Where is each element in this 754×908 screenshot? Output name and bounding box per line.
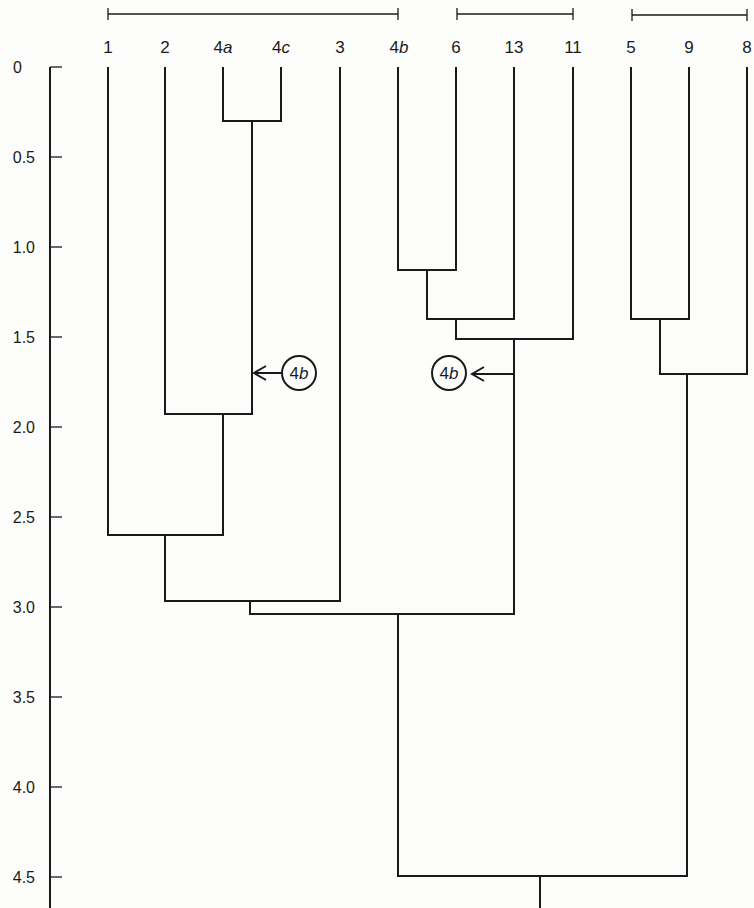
- group-bracket-2: [457, 8, 573, 20]
- branch-root: [398, 374, 687, 876]
- leaf-label: 3: [335, 38, 344, 57]
- annotation-label: 4b: [440, 364, 459, 383]
- branch-8-group: [660, 67, 747, 374]
- y-tick-label: 3.0: [13, 599, 35, 616]
- leaf-label: 8: [742, 38, 751, 57]
- dendrogram-branches: [108, 67, 747, 908]
- dendrogram-chart: 1 2 4a 4c 3 4b 6 13 11 5 9 8 0 0.5 1.0 1…: [0, 0, 754, 908]
- leaf-label: 9: [684, 38, 693, 57]
- annotation-left: 4b: [254, 356, 316, 390]
- annotation-right: 4b: [432, 356, 513, 390]
- branch-4b-6: [398, 67, 456, 270]
- leaf-label: 5: [626, 38, 635, 57]
- leaf-label: 4b: [390, 38, 409, 57]
- leaf-label: 1: [103, 38, 112, 57]
- y-tick-label: 3.5: [13, 689, 35, 706]
- annotation-label: 4b: [290, 364, 309, 383]
- leaf-labels: 1 2 4a 4c 3 4b 6 13 11 5 9 8: [103, 38, 751, 57]
- leaf-label: 13: [505, 38, 524, 57]
- y-tick-label: 1.5: [13, 329, 35, 346]
- leaf-label: 4c: [272, 38, 290, 57]
- y-axis: 0 0.5 1.0 1.5 2.0 2.5 3.0 3.5 4.0 4.5: [13, 59, 62, 908]
- group-bracket-3: [632, 9, 747, 21]
- y-tick-label: 4.0: [13, 779, 35, 796]
- y-tick-label: 4.5: [13, 869, 35, 886]
- branch-13-group: [427, 67, 514, 319]
- leaf-label: 4a: [214, 38, 233, 57]
- y-tick-label: 0: [13, 59, 22, 76]
- y-tick-label: 2.5: [13, 509, 35, 526]
- group-bracket-1: [108, 8, 398, 20]
- y-tick-label: 2.0: [13, 419, 35, 436]
- group-brackets: [108, 8, 747, 21]
- leaf-label: 2: [160, 38, 169, 57]
- leaf-label: 11: [564, 38, 582, 57]
- y-tick-label: 1.0: [13, 239, 35, 256]
- y-tick-label: 0.5: [13, 149, 35, 166]
- branch-4a-4c: [223, 67, 281, 121]
- leaf-label: 6: [451, 38, 460, 57]
- branch-5-9: [631, 67, 689, 319]
- branch-2-4a-4c: [165, 67, 252, 414]
